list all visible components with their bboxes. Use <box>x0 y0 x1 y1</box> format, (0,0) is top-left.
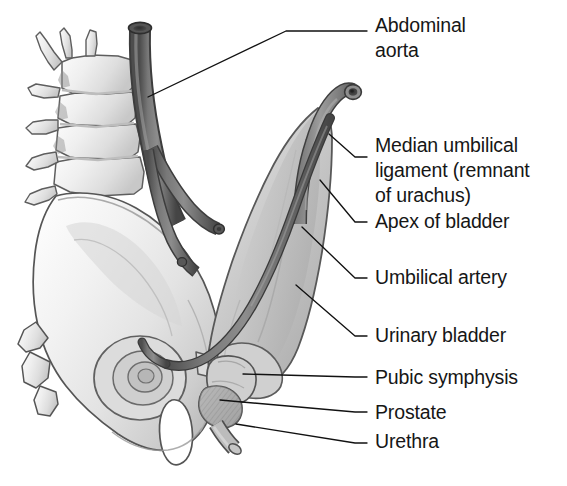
label-abdominal-aorta: Abdominal aorta <box>375 13 466 63</box>
label-urethra: Urethra <box>375 429 439 454</box>
anatomy-figure: Abdominal aorta Median umbilical ligamen… <box>0 0 567 486</box>
label-apex-of-bladder: Apex of bladder <box>375 209 509 234</box>
label-prostate: Prostate <box>375 400 446 425</box>
label-pubic-symphysis: Pubic symphysis <box>375 365 518 390</box>
label-median-umbilical-ligament: Median umbilical ligament (remnant of ur… <box>375 133 530 208</box>
label-umbilical-artery: Umbilical artery <box>375 265 507 290</box>
label-urinary-bladder: Urinary bladder <box>375 323 506 348</box>
callout-labels: Abdominal aorta Median umbilical ligamen… <box>0 0 567 486</box>
